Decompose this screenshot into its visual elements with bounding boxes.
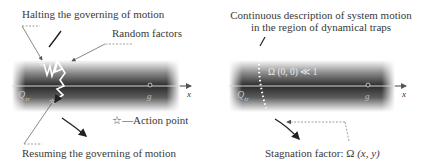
omega-band-label: Ω (0, 0) ≪ 1 [268,66,318,77]
x-axis-label: x [402,89,406,99]
left-diagram-graphics: ☆ ☆ [0,0,215,168]
stagnation-factor-label: Stagnation factor: Ω (x, y) [265,147,380,159]
random-factors-label: Random factors [112,27,182,39]
g-label: g [147,91,152,101]
action-point-star-icon: ☆ [38,59,45,68]
halting-label: Halting the governing of motion [22,8,164,20]
curved-arrow-icon [62,118,86,136]
curved-arrow-icon [49,31,61,47]
panel-continuous-description: Continuous description of system motion … [215,0,427,168]
x-axis-label: x [187,89,191,99]
random-trajectory-icon [44,58,65,99]
action-point-legend: ☆—Action point [112,114,188,127]
trap-boundary-dotted-line [259,60,266,108]
goal-point-icon [366,83,370,87]
action-point-star-icon: ☆ [49,97,56,106]
continuous-description-caption: Continuous description of system motion … [215,9,427,33]
panel-discrete-description: ☆ ☆ Halting the governing of motion Rand… [0,0,215,168]
q-tr-label: Qtr [18,89,30,103]
resuming-label: Resuming the governing of motion [22,147,176,159]
g-label: g [365,91,370,101]
q-tr-label: Qtr [237,89,249,103]
goal-point-icon [148,83,152,87]
